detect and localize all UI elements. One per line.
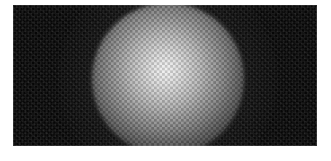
beam-spot (92, 5, 244, 146)
sensor-capture-frame (13, 5, 317, 146)
capture-viewport: Beam Profile Capture (0, 0, 331, 161)
